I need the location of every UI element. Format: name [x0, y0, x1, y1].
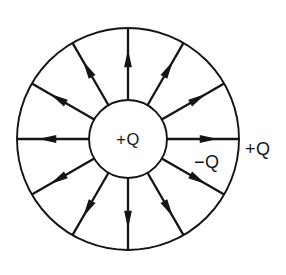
field-line-diagram: +Q −Q +Q	[0, 0, 286, 275]
center-charge-label: +Q	[116, 130, 139, 148]
field-line-right-arrowhead	[200, 135, 218, 143]
inner-surface-charge-label: −Q	[194, 152, 219, 172]
field-line-down-arrowhead	[124, 211, 132, 229]
field-line-left-up-arrowhead	[50, 94, 68, 106]
field-line-up-arrowhead	[124, 49, 132, 67]
field-line-down-left-arrowhead	[83, 199, 95, 217]
outer-surface-charge-label: +Q	[245, 139, 270, 159]
field-line-down-right-arrowhead	[161, 199, 173, 217]
field-line-right-down-arrowhead	[188, 172, 206, 184]
figure-canvas: +Q −Q +Q	[0, 0, 286, 275]
field-line-right-up-arrowhead	[188, 94, 206, 106]
field-line-left-down-arrowhead	[50, 172, 68, 184]
field-line-up-left-arrowhead	[83, 61, 95, 79]
field-line-up-right-arrowhead	[161, 61, 173, 79]
field-line-left-arrowhead	[38, 135, 56, 143]
